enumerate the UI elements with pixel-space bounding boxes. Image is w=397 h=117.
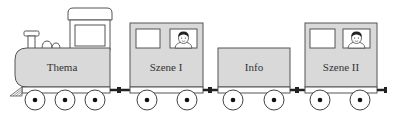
coupler-icon bbox=[377, 87, 387, 93]
chimney-cap bbox=[24, 31, 39, 36]
car-label-szene-2: Szene II bbox=[323, 61, 360, 73]
locomotive: Thema bbox=[10, 8, 112, 110]
window bbox=[310, 29, 335, 48]
cab-roof bbox=[68, 8, 112, 20]
car-label-info: Info bbox=[245, 61, 264, 73]
coupler-icon bbox=[290, 87, 305, 93]
wheel-icon bbox=[177, 90, 197, 110]
wheel-icon bbox=[264, 90, 284, 110]
coupler-icon bbox=[110, 87, 130, 93]
wheel-icon bbox=[223, 90, 243, 110]
wheel-icon bbox=[137, 90, 157, 110]
train-diagram: Thema Szene I bbox=[0, 0, 397, 117]
window bbox=[136, 29, 160, 48]
cab-window bbox=[75, 25, 105, 46]
wheel-icon bbox=[350, 90, 370, 110]
car-label-szene-1: Szene I bbox=[150, 61, 183, 73]
car-label-thema: Thema bbox=[47, 61, 78, 73]
wheel-icon bbox=[85, 90, 105, 110]
wheel-icon bbox=[310, 90, 330, 110]
wagon-szene-1: Szene I bbox=[130, 23, 203, 110]
wheel-icon bbox=[25, 90, 45, 110]
coupler-icon bbox=[203, 87, 218, 93]
chimney-icon bbox=[28, 36, 35, 49]
wagon-szene-2: Szene II bbox=[305, 23, 377, 110]
wagon-info: Info bbox=[218, 48, 290, 110]
wheel-icon bbox=[55, 90, 75, 110]
